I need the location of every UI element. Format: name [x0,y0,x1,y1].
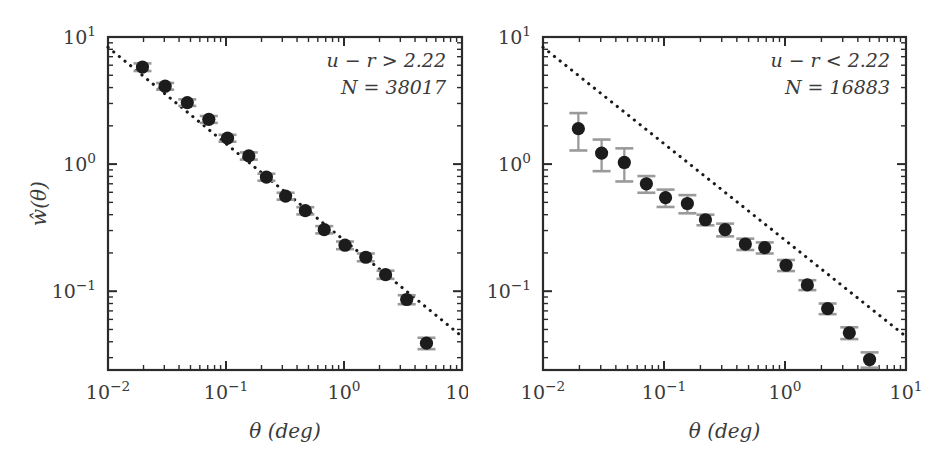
data-point [756,241,774,254]
data-marker [640,177,653,190]
data-point [716,223,734,236]
data-point [398,293,416,306]
data-point [277,190,295,203]
data-marker [843,326,856,339]
data-marker [420,337,433,350]
tick-label: 10−1 [52,277,96,302]
panel-annotation: N = 38017 [340,76,447,98]
data-point [257,171,275,184]
data-point [777,259,795,272]
tick-label: 100 [63,150,96,175]
tick-label: 101 [890,378,923,403]
tick-label: 10−1 [204,378,248,403]
data-point [219,132,237,145]
data-point [417,337,435,350]
data-marker [318,223,331,236]
data-point [133,60,151,73]
data-point [178,96,196,109]
panel-right: 10−210−110010110110010−1θ (deg)u − r < 2… [468,0,936,455]
data-series [569,113,878,368]
data-marker [779,259,792,272]
data-marker [202,113,215,126]
figure-container: 10−210−110010110110010−1θ (deg)ŵ(θ)u − r… [0,0,936,455]
data-marker [221,132,234,145]
data-marker [681,197,694,210]
data-point [593,140,611,172]
tick-label: 10−1 [642,378,686,403]
data-point [156,80,174,93]
data-point [840,326,858,339]
data-series [133,60,435,349]
data-marker [379,268,392,281]
data-marker [572,122,585,135]
x-axis-title: θ (deg) [689,419,760,443]
data-marker [659,191,672,204]
data-marker [400,293,413,306]
data-marker [863,353,876,366]
data-point [736,237,754,250]
data-marker [719,223,732,236]
data-point [615,148,633,181]
plot-right: 10−210−110010110110010−1θ (deg)u − r < 2… [468,0,936,455]
tick-label: 10−2 [521,378,565,403]
tick-label: 101 [446,378,468,403]
data-marker [181,96,194,109]
data-point [637,176,655,193]
data-point [240,149,258,162]
data-marker [618,156,631,169]
tick-label: 100 [328,378,361,403]
data-marker [159,80,172,93]
data-point [798,278,816,291]
tick-label: 101 [498,23,531,48]
tick-label: 10−2 [86,378,130,403]
data-marker [359,251,372,264]
plot-left: 10−210−110010110110010−1θ (deg)ŵ(θ)u − r… [0,0,468,455]
panel-annotation: u − r < 2.22 [770,49,890,71]
data-point [315,223,333,236]
data-marker [699,213,712,226]
data-point [377,268,395,281]
data-point [678,195,696,213]
data-marker [242,149,255,162]
data-point [200,113,218,126]
x-axis-title: θ (deg) [249,419,320,443]
data-point [819,302,837,315]
panel-left: 10−210−110010110110010−1θ (deg)ŵ(θ)u − r… [0,0,468,455]
data-marker [136,60,149,73]
data-point [336,239,354,252]
data-point [296,204,314,217]
data-point [569,113,587,150]
data-marker [279,190,292,203]
data-marker [595,147,608,160]
tick-label: 101 [63,23,96,48]
data-point [357,251,375,264]
tick-label: 10−1 [487,277,531,302]
data-marker [739,237,752,250]
data-point [696,213,714,226]
panel-annotation: N = 16883 [784,76,890,98]
data-marker [758,241,771,254]
tick-label: 100 [498,150,531,175]
data-point [861,352,879,367]
data-marker [299,204,312,217]
data-point [657,190,675,207]
data-marker [801,278,814,291]
tick-label: 100 [769,378,802,403]
y-axis-title: ŵ(θ) [27,181,51,226]
panel-annotation: u − r > 2.22 [326,49,446,71]
data-marker [338,239,351,252]
data-marker [821,302,834,315]
data-marker [260,171,273,184]
